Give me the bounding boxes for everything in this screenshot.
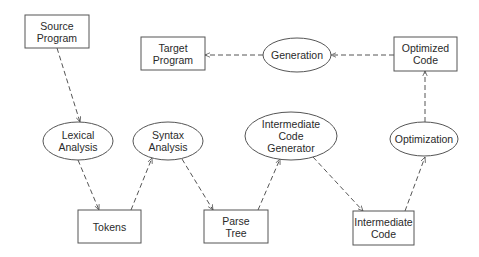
node-label: Intermediate (354, 216, 413, 228)
node-label: Optimization (395, 133, 454, 145)
node-target-program: TargetProgram (141, 37, 205, 70)
node-label: Generation (271, 49, 323, 61)
node-label: Tree (225, 227, 246, 239)
node-label: Syntax (152, 129, 185, 141)
edge-tokens-to-syntax-analysis (131, 158, 152, 210)
edges-layer (57, 48, 425, 211)
node-label: Intermediate (262, 118, 321, 130)
node-label: Generator (267, 142, 315, 154)
node-label: Code (371, 228, 396, 240)
node-intermediate-code: IntermediateCode (353, 211, 414, 245)
node-syntax-analysis: SyntaxAnalysis (133, 122, 203, 160)
node-label: Analysis (148, 141, 187, 153)
node-optimization: Optimization (390, 122, 458, 156)
node-parse-tree: ParseTree (204, 210, 268, 243)
node-generation: Generation (263, 38, 331, 72)
node-label: Program (153, 54, 194, 66)
node-label: Tokens (93, 221, 126, 233)
node-label: Target (158, 42, 187, 54)
node-intermediate-code-generator: IntermediateCodeGenerator (245, 112, 337, 160)
node-label: Program (37, 32, 78, 44)
node-label: Source (40, 20, 73, 32)
node-label: Parse (222, 215, 250, 227)
node-label: Code (413, 54, 438, 66)
node-lexical-analysis: LexicalAnalysis (43, 122, 113, 160)
node-label: Code (278, 130, 303, 142)
edge-source-program-to-lexical-analysis (57, 48, 80, 122)
compiler-phases-diagram: SourceProgramLexicalAnalysisTokensSyntax… (0, 0, 479, 257)
edge-lexical-analysis-to-tokens (78, 160, 99, 210)
node-tokens: Tokens (78, 210, 141, 243)
node-optimized-code: OptimizedCode (394, 37, 457, 71)
edge-parse-tree-to-intermediate-code-generator (258, 159, 280, 210)
nodes-layer: SourceProgramLexicalAnalysisTokensSyntax… (25, 15, 458, 245)
node-label: Optimized (402, 42, 449, 54)
edge-intermediate-code-generator-to-intermediate-code (313, 157, 363, 211)
node-source-program: SourceProgram (25, 15, 89, 48)
node-label: Lexical (62, 129, 95, 141)
node-label: Analysis (58, 141, 97, 153)
edge-syntax-analysis-to-parse-tree (182, 159, 213, 210)
edge-intermediate-code-to-optimization (405, 157, 425, 211)
